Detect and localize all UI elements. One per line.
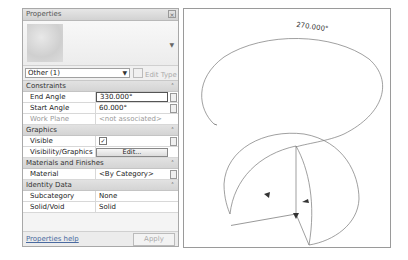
property-key: Work Plane — [23, 114, 96, 124]
visible-cell: ✓ — [96, 136, 178, 146]
grip-arrow — [264, 192, 270, 198]
properties-footer: Properties help Apply — [23, 231, 178, 246]
property-key: Visibility/Graphics O... — [23, 147, 96, 157]
chevron-down-icon: ▼ — [122, 69, 127, 77]
property-key: Material — [23, 169, 96, 179]
property-row-solid-void: Solid/Void Solid — [23, 202, 178, 213]
property-row-visible: Visible ✓ — [23, 136, 178, 147]
section-graphics[interactable]: Graphics ˄ — [23, 125, 178, 136]
section-label: Graphics — [26, 126, 57, 134]
material-value[interactable]: <By Category> — [96, 169, 178, 179]
type-preview[interactable]: ▼ — [23, 21, 178, 66]
properties-titlebar[interactable]: Properties × — [23, 9, 178, 21]
visible-checkbox[interactable]: ✓ — [99, 137, 107, 145]
property-row-material: Material <By Category> — [23, 169, 178, 180]
model-geometry — [184, 9, 392, 249]
section-label: Constraints — [26, 82, 66, 90]
grip-arrow — [293, 213, 299, 219]
angle-dimension-arc — [202, 38, 383, 147]
type-filter-dropdown[interactable]: Other (1) ▼ — [25, 68, 130, 78]
solid-void-value[interactable]: Solid — [96, 202, 178, 212]
section-materials[interactable]: Materials and Finishes ˄ — [23, 158, 178, 169]
start-angle-value[interactable]: 60.000° — [96, 103, 178, 113]
scrollbar-thumb[interactable] — [170, 104, 177, 113]
section-label: Identity Data — [26, 181, 72, 189]
end-angle-input[interactable]: 330.000° — [96, 92, 168, 102]
properties-help-link[interactable]: Properties help — [26, 235, 79, 243]
property-grid: Constraints ˄ End Angle 330.000° Start A… — [23, 81, 178, 213]
type-filter-value: Other (1) — [28, 69, 60, 77]
scrollbar-thumb[interactable] — [170, 137, 177, 146]
properties-panel: Properties × ▼ Other (1) ▼ Edit Type Con… — [22, 8, 179, 247]
collapse-icon[interactable]: ˄ — [171, 125, 174, 135]
property-row-start-angle: Start Angle 60.000° — [23, 103, 178, 114]
property-key: Visible — [23, 136, 96, 146]
scrollbar-thumb[interactable] — [170, 170, 177, 179]
section-constraints[interactable]: Constraints ˄ — [23, 81, 178, 92]
collapse-icon[interactable]: ˄ — [171, 158, 174, 168]
property-row-work-plane: Work Plane <not associated> — [23, 114, 178, 125]
collapse-icon[interactable]: ˄ — [171, 81, 174, 91]
visibility-graphics-cell: Edit... — [96, 147, 178, 157]
subcategory-value[interactable]: None — [96, 191, 178, 201]
property-row-end-angle: End Angle 330.000° — [23, 92, 178, 103]
property-key: Solid/Void — [23, 202, 96, 212]
grip-arrow — [302, 199, 309, 203]
type-selector-row: Other (1) ▼ Edit Type — [23, 66, 178, 81]
panel-title: Properties — [26, 10, 61, 18]
section-label: Materials and Finishes — [26, 159, 104, 167]
property-key: Start Angle — [23, 103, 96, 113]
sphere-outline — [224, 133, 359, 245]
property-key: Subcategory — [23, 191, 96, 201]
edit-visibility-button[interactable]: Edit... — [96, 148, 168, 157]
property-row-visibility-graphics: Visibility/Graphics O... Edit... — [23, 147, 178, 158]
edit-type-button[interactable]: Edit Type — [133, 68, 177, 79]
edit-type-label: Edit Type — [145, 71, 177, 79]
property-key: End Angle — [23, 92, 96, 102]
collapse-icon[interactable]: ˄ — [171, 180, 174, 190]
work-plane-value: <not associated> — [96, 114, 178, 124]
apply-button[interactable]: Apply — [133, 233, 175, 246]
chevron-down-icon[interactable]: ▼ — [169, 41, 174, 48]
property-row-subcategory: Subcategory None — [23, 191, 178, 202]
section-identity-data[interactable]: Identity Data ˄ — [23, 180, 178, 191]
edit-type-icon — [133, 68, 143, 78]
close-icon[interactable]: × — [168, 10, 176, 18]
scrollbar-thumb[interactable] — [170, 93, 177, 102]
drawing-viewport[interactable]: 270.000° — [183, 8, 391, 248]
type-thumbnail — [27, 24, 63, 62]
